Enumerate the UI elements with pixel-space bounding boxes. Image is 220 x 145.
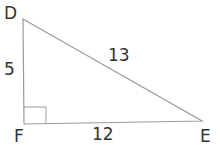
- triangle-def: [23, 19, 202, 124]
- side-label-df: 5: [4, 59, 15, 79]
- vertex-label-f: F: [14, 126, 24, 145]
- vertex-label-d: D: [4, 3, 17, 23]
- vertex-label-e: E: [200, 126, 211, 145]
- side-label-fe: 12: [92, 124, 114, 144]
- right-angle-marker: [24, 107, 46, 124]
- triangle-diagram: D F E 5 12 13: [0, 0, 220, 145]
- side-label-de: 13: [108, 45, 130, 65]
